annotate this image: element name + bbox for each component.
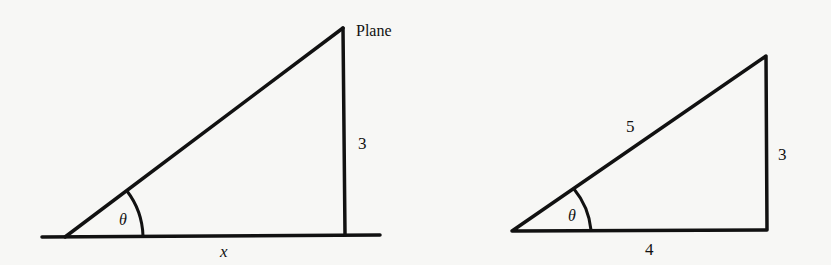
triangle-3-4-5 [512,56,767,231]
left-triangle [42,28,380,237]
left-theta-label: θ [119,212,127,228]
angle-arc [574,189,591,230]
left-vertical-side-label: 3 [358,135,367,152]
angle-arc [127,191,143,236]
right-triangle [512,56,767,231]
ground-line [42,235,380,237]
base-4-label: 4 [645,241,654,258]
right-theta-label: θ [568,208,576,224]
right-vertical-side-label: 3 [778,146,787,163]
altitude-side [343,28,345,235]
line-of-sight [65,28,343,237]
hypotenuse-label: 5 [626,118,635,135]
plane-label: Plane [356,23,392,39]
base-x-label: x [220,243,228,260]
